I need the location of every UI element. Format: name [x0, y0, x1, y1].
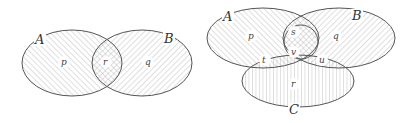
set-a-label-3: A — [222, 9, 232, 24]
set-b-label: B — [163, 31, 174, 46]
set-c-label-3: C — [289, 102, 299, 117]
region-q-label-3: q — [333, 31, 339, 41]
region-q-label: q — [145, 57, 151, 67]
region-p-label: p — [61, 57, 67, 67]
region-r-label-3: r — [291, 79, 296, 89]
region-p-label-3: p — [248, 31, 254, 41]
set-a-label: A — [34, 32, 44, 47]
region-v-label-3: v — [291, 47, 296, 57]
set-b-label-3: B — [351, 8, 362, 23]
venn-three-sets: A B C p q r s t u v — [207, 8, 395, 117]
venn-two-sets: A B p r q — [22, 30, 192, 96]
region-s-label-3: s — [291, 27, 296, 37]
region-u-label-3: u — [319, 55, 325, 65]
venn-diagrams-canvas: A B p r q A B C p q r s t — [0, 0, 400, 123]
region-t-label-3: t — [262, 55, 266, 65]
region-r-label: r — [103, 57, 108, 67]
